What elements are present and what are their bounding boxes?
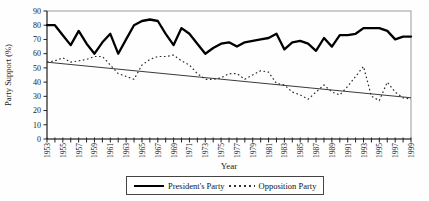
- y-tick-label: 30: [33, 92, 41, 101]
- x-axis-title: Year: [199, 161, 259, 171]
- x-tick-label: 1991: [344, 143, 353, 158]
- x-tick-label: 1999: [407, 143, 416, 158]
- x-tick-label: 1995: [375, 143, 384, 158]
- y-tick-label: 80: [33, 21, 41, 30]
- x-tick-label: 1985: [296, 143, 305, 158]
- opposition-party-line: [47, 55, 411, 101]
- x-tick-label: 1973: [201, 143, 210, 158]
- x-tick-label: 1997: [391, 143, 400, 158]
- y-axis-title: Party Support (%): [3, 14, 15, 136]
- legend-label-opposition: Opposition Party: [259, 181, 317, 191]
- plot-border: [47, 11, 411, 139]
- x-tick-label: 1963: [122, 143, 131, 158]
- x-tick-label: 1959: [90, 143, 99, 158]
- x-tick-label: 1993: [360, 143, 369, 158]
- x-tick-label: 1975: [217, 143, 226, 158]
- x-tick-label: 1987: [312, 143, 321, 158]
- x-tick-label: 1955: [59, 143, 68, 158]
- president-line-sample: [134, 185, 164, 187]
- y-tick-label: 0: [37, 135, 41, 144]
- legend: President's Party Opposition Party: [126, 176, 324, 195]
- x-tick-label: 1981: [265, 143, 274, 158]
- x-tick-label: 1967: [154, 143, 163, 158]
- x-tick-label: 1979: [249, 143, 258, 158]
- president-party-line: [47, 20, 411, 54]
- x-tick-label: 1961: [106, 143, 115, 158]
- y-tick-label: 60: [33, 49, 41, 58]
- y-tick-label: 10: [33, 121, 41, 130]
- trend-line: [47, 62, 411, 98]
- x-tick-label: 1953: [43, 143, 52, 158]
- y-tick-label: 70: [33, 35, 41, 44]
- x-tick-label: 1965: [138, 143, 147, 158]
- legend-label-president: President's Party: [168, 181, 225, 191]
- chart-figure: 0102030405060708090195319551957195919611…: [0, 0, 429, 201]
- x-tick-label: 1971: [185, 143, 194, 158]
- y-tick-label: 90: [33, 7, 41, 16]
- x-tick-label: 1989: [328, 143, 337, 158]
- y-tick-label: 40: [33, 78, 41, 87]
- x-tick-label: 1957: [75, 143, 84, 158]
- x-tick-label: 1983: [280, 143, 289, 158]
- opposition-line-sample: [229, 185, 255, 187]
- x-tick-label: 1969: [170, 143, 179, 158]
- x-tick-label: 1977: [233, 143, 242, 158]
- y-tick-label: 50: [33, 64, 41, 73]
- y-tick-label: 20: [33, 106, 41, 115]
